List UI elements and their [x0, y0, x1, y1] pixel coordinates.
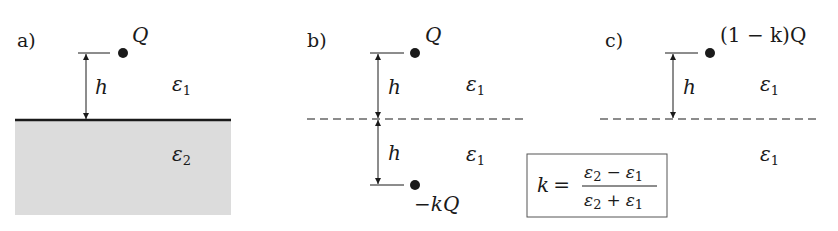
medium-upper-label: ε1	[466, 72, 485, 98]
medium-upper-label: ε1	[760, 72, 779, 98]
point-charge	[705, 48, 715, 58]
medium-upper-label: ε1	[172, 72, 191, 98]
formula-box: k= ε2−ε1 ε2+ε1	[527, 154, 667, 217]
image-charge-diagram: a) h Q ε1 ε2 b) h h Q −kQ ε1 ε1	[0, 0, 838, 231]
formula-denominator: ε2+ε1	[584, 190, 643, 212]
formula-lhs: k=	[537, 173, 570, 197]
image-charge	[410, 180, 420, 190]
lower-dielectric-region	[15, 120, 231, 215]
charge-label: Q	[132, 23, 148, 47]
point-charge	[410, 48, 420, 58]
distance-label: h	[683, 75, 696, 99]
distance-label-upper: h	[388, 75, 401, 99]
point-charge	[118, 48, 128, 58]
panel-c-label: c)	[605, 29, 623, 51]
panel-a: a) h Q ε1 ε2	[15, 23, 231, 215]
medium-lower-label: ε1	[760, 142, 779, 168]
distance-label-lower: h	[388, 141, 401, 165]
panel-a-label: a)	[17, 29, 36, 51]
medium-lower-label: ε1	[466, 142, 485, 168]
panel-b-label: b)	[307, 29, 327, 51]
charge-label: Q	[425, 23, 441, 47]
formula-numerator: ε2−ε1	[584, 162, 643, 184]
charge-label: (1 − k)Q	[720, 23, 806, 47]
distance-label: h	[95, 75, 108, 99]
panel-b: b) h h Q −kQ ε1 ε1	[307, 23, 528, 216]
panel-c: c) h (1 − k)Q ε1 ε1	[600, 23, 820, 168]
image-charge-label: −kQ	[414, 192, 459, 216]
